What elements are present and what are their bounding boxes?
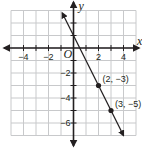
x-axis-label: x <box>136 34 142 48</box>
x-tick-label: −4 <box>18 52 28 62</box>
tick-labels: −4−224−2−4−6 <box>18 52 126 128</box>
origin-label: O <box>64 47 73 61</box>
y-axis-label: y <box>78 0 85 13</box>
data-point-label: (2, −3) <box>103 74 129 84</box>
y-tick-label: −2 <box>60 68 70 78</box>
coordinate-plane: −4−224−2−4−6 (2, −3)(3, −5) x y O <box>0 0 142 149</box>
data-point-label: (3, −5) <box>115 99 141 109</box>
y-tick-label: −6 <box>60 118 70 128</box>
x-tick-label: −2 <box>43 52 53 62</box>
x-tick-label: 4 <box>121 52 126 62</box>
x-tick-label: 2 <box>96 52 101 62</box>
y-tick-label: −4 <box>60 93 70 103</box>
data-point <box>96 83 101 88</box>
data-point <box>108 108 113 113</box>
